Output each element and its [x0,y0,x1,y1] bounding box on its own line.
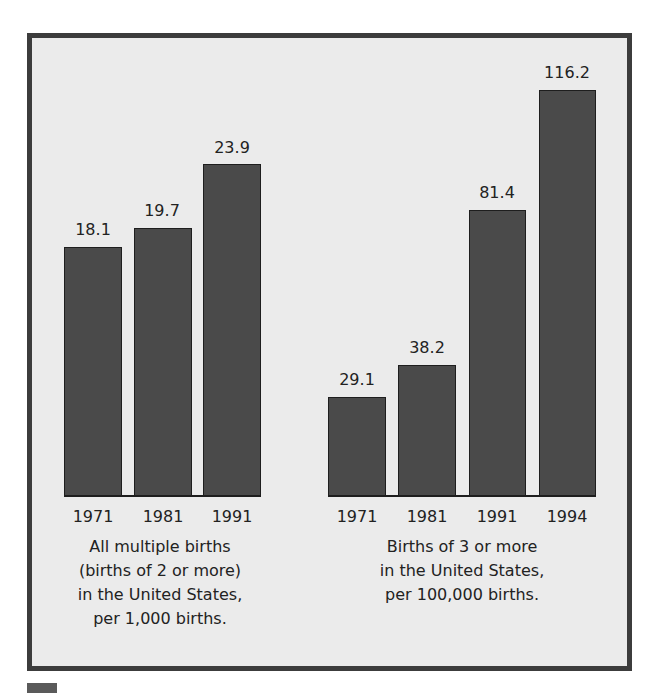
bar-1991 [203,164,261,497]
caption-line: in the United States, [60,583,260,607]
x-tick-label: 1991 [197,507,267,526]
value-label: 19.7 [122,201,202,220]
caption-line: Births of 3 or more [362,535,562,559]
caption-line: in the United States, [362,559,562,583]
x-tick-label: 1981 [128,507,198,526]
page-corner-mark [27,683,57,693]
value-label: 18.1 [53,220,133,239]
bar-1971 [64,247,122,497]
bar-1981 [398,365,456,497]
value-label: 29.1 [317,370,397,389]
caption-line: All multiple births [60,535,260,559]
chart-caption: Births of 3 or more in the United States… [362,535,562,607]
bar-1991 [469,210,526,497]
x-tick-label: 1971 [58,507,128,526]
caption-line: (births of 2 or more) [60,559,260,583]
caption-line: per 1,000 births. [60,607,260,631]
x-axis-baseline [64,495,261,497]
x-tick-label: 1981 [392,507,462,526]
bar-1971 [328,397,386,497]
value-label: 23.9 [192,138,272,157]
x-axis-baseline [328,495,596,497]
x-tick-label: 1971 [322,507,392,526]
value-label: 116.2 [527,63,607,82]
bar-1994 [539,90,596,497]
bar-1981 [134,228,192,497]
x-tick-label: 1994 [532,507,602,526]
chart-caption: All multiple births (births of 2 or more… [60,535,260,631]
value-label: 81.4 [457,183,537,202]
value-label: 38.2 [387,338,467,357]
caption-line: per 100,000 births. [362,583,562,607]
x-tick-label: 1991 [462,507,532,526]
